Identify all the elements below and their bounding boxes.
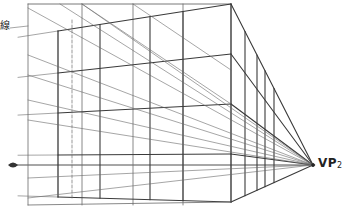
label-leader <box>10 26 28 28</box>
extension-line <box>18 73 58 77</box>
front-face-edge <box>58 197 231 202</box>
construction-ray <box>60 4 313 165</box>
construction-ray <box>28 165 313 198</box>
construction-ray <box>28 8 313 165</box>
front-face-edge <box>58 4 231 31</box>
construction-ray <box>28 120 313 165</box>
front-face-edge <box>58 54 231 73</box>
perspective-drawing <box>0 0 343 210</box>
ground-line <box>28 202 231 205</box>
eye-icon <box>8 163 18 168</box>
vanishing-point-marker <box>311 163 314 166</box>
vp-main-text: VP <box>318 156 337 170</box>
vanishing-point-label: VP2 <box>318 157 343 169</box>
horizon-line-label: 線 <box>0 21 10 31</box>
diagonal <box>82 4 231 104</box>
side-face-edge <box>231 165 313 202</box>
extension-line <box>18 113 58 115</box>
front-face-edge <box>58 154 231 155</box>
construction-ray <box>82 4 313 165</box>
perspective-diagram: 線 VP2 <box>0 0 343 210</box>
side-face-edge <box>231 54 313 165</box>
construction-ray <box>28 165 313 178</box>
extension-line <box>18 31 58 37</box>
vp-subscript: 2 <box>337 161 343 170</box>
side-face-edge <box>231 4 313 165</box>
construction-ray <box>28 75 313 165</box>
